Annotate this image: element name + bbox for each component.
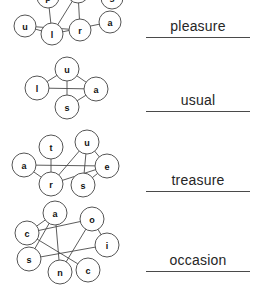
letter-text: u [84, 138, 90, 148]
puzzle-occasion-graph: aocisnc [0, 0, 262, 294]
worksheet: ulrapespleasureulasusualtuaerstreasureao… [0, 0, 262, 294]
letter-circle [39, 135, 63, 159]
puzzle-treasure-answer-slot[interactable]: treasure [146, 172, 250, 192]
letter-circle [75, 130, 99, 154]
connector-line [51, 166, 107, 184]
letter-node-c[interactable]: c [15, 221, 39, 245]
letter-text: a [21, 161, 27, 171]
letter-circle [48, 260, 72, 284]
letter-node-a[interactable]: a [84, 77, 108, 101]
connector-line [37, 69, 67, 88]
puzzle-pleasure-answer-slot[interactable]: pleasure [146, 18, 250, 38]
letter-text: l [36, 84, 39, 94]
letter-text: r [49, 180, 53, 190]
letter-text: c [24, 229, 29, 239]
letter-node-s[interactable]: s [101, 0, 123, 9]
letter-text: l [51, 30, 54, 40]
connector-line [52, 22, 110, 34]
letter-circle [15, 221, 39, 245]
letter-text: s [109, 0, 114, 4]
letter-node-u[interactable]: u [14, 15, 36, 37]
connector-line [78, 0, 80, 30]
letter-text: e [104, 162, 109, 172]
letter-node-a[interactable]: a [12, 153, 36, 177]
letter-node-p[interactable]: p [37, 0, 59, 8]
letter-text: a [107, 18, 113, 28]
letter-circle [80, 207, 104, 231]
answer-underline [146, 191, 250, 192]
letter-text: t [50, 143, 53, 153]
letter-text: o [89, 215, 95, 225]
letter-node-t[interactable]: t [39, 135, 63, 159]
letter-node-c[interactable]: c [76, 258, 100, 282]
connector-line [83, 142, 87, 185]
connector-line [29, 213, 55, 259]
connector-line [92, 219, 107, 245]
letter-node-l[interactable]: l [25, 76, 49, 100]
answer-underline [146, 111, 250, 112]
letter-text: u [64, 65, 70, 75]
letter-text: p [45, 0, 51, 3]
letter-node-u[interactable]: u [55, 57, 79, 81]
letter-circle [67, 0, 89, 3]
letter-circle [14, 15, 36, 37]
letter-node-o[interactable]: o [80, 207, 104, 231]
connector-line [51, 142, 87, 184]
letter-text: c [85, 266, 90, 276]
letter-circle [25, 76, 49, 100]
letter-circle [55, 95, 79, 119]
puzzle-treasure-answer-word: treasure [146, 172, 250, 188]
letter-node-e[interactable]: e [67, 0, 89, 3]
letter-circle [95, 233, 119, 257]
answer-underline [146, 271, 250, 272]
answer-underline [146, 37, 250, 38]
connector-line [27, 219, 92, 233]
connector-line [27, 233, 88, 270]
letter-node-s[interactable]: s [55, 95, 79, 119]
connector-line [25, 26, 52, 34]
letter-text: s [26, 255, 31, 265]
puzzle-treasure-graph: tuaers [0, 0, 262, 294]
letter-text: u [22, 22, 28, 32]
letter-node-e[interactable]: e [95, 154, 119, 178]
letter-circle [71, 173, 95, 197]
connector-line [60, 219, 92, 272]
connector-line [27, 213, 55, 233]
letter-circle [39, 172, 63, 196]
letter-node-r[interactable]: r [69, 19, 91, 41]
connector-line [25, 26, 80, 30]
connector-line [55, 213, 60, 272]
letter-circle [69, 19, 91, 41]
connector-line [52, 0, 78, 34]
letter-circle [37, 0, 59, 8]
connector-line [24, 165, 51, 184]
puzzle-usual-answer-slot[interactable]: usual [146, 92, 250, 112]
letter-text: a [52, 209, 58, 219]
connector-line [67, 89, 96, 107]
letter-node-i[interactable]: i [95, 233, 119, 257]
letter-node-a[interactable]: a [99, 11, 121, 33]
connector-line [48, 0, 52, 34]
letter-text: a [93, 85, 99, 95]
letter-text: s [80, 181, 85, 191]
puzzle-usual-answer-word: usual [146, 92, 250, 108]
letter-text: i [106, 241, 109, 251]
puzzle-pleasure-answer-word: pleasure [146, 18, 250, 34]
letter-node-n[interactable]: n [48, 260, 72, 284]
puzzle-usual-graph: ulas [0, 0, 262, 294]
letter-circle [95, 154, 119, 178]
puzzle-occasion-answer-slot[interactable]: occasion [146, 252, 250, 272]
letter-node-l[interactable]: l [41, 23, 63, 45]
letter-node-u[interactable]: u [75, 130, 99, 154]
letter-node-s[interactable]: s [71, 173, 95, 197]
connector-line [67, 69, 96, 89]
letter-circle [101, 0, 123, 9]
letter-node-r[interactable]: r [39, 172, 63, 196]
connector-line [87, 142, 107, 166]
connector-line [24, 165, 107, 166]
letter-node-a[interactable]: a [43, 201, 67, 225]
letter-circle [99, 11, 121, 33]
letter-node-s[interactable]: s [17, 247, 41, 271]
letter-circle [76, 258, 100, 282]
letter-circle [12, 153, 36, 177]
